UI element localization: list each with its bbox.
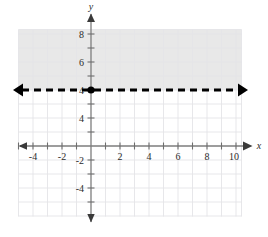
- y-axis-label: y: [88, 1, 94, 12]
- x-axis-arrow-right-icon: [243, 142, 253, 151]
- y-tick-label: 8: [79, 29, 84, 40]
- x-axis-arrow-left-icon: [19, 142, 28, 150]
- y-tick-label: -2: [76, 155, 84, 166]
- y-axis-arrow-up-icon: [87, 14, 95, 23]
- x-tick-label: -4: [29, 151, 37, 162]
- y-intercept-dot: [87, 86, 94, 93]
- x-tick-label: 2: [118, 151, 123, 162]
- shaded-region-group: [19, 30, 242, 91]
- x-tick-label: 10: [229, 151, 239, 162]
- graph-figure: -4 -2 2 4 6 8 10 8 6 4 4 -2 -4 y x: [0, 0, 268, 237]
- boundary-arrow-left-icon: [13, 84, 23, 97]
- coordinate-plane-svg: -4 -2 2 4 6 8 10 8 6 4 4 -2 -4 y x: [0, 0, 268, 237]
- x-tick-label: -2: [58, 151, 66, 162]
- y-tick-label: -4: [76, 183, 84, 194]
- y-tick-label: 4: [79, 113, 84, 124]
- y-tick-label: 6: [79, 57, 84, 68]
- solution-region-above: [19, 30, 242, 91]
- y-axis-arrow-down-icon: [87, 214, 94, 223]
- x-tick-label: 6: [176, 151, 181, 162]
- x-tick-label: 8: [205, 151, 210, 162]
- x-axis-label: x: [256, 140, 262, 151]
- x-tick-label: 4: [147, 151, 152, 162]
- boundary-arrow-right-icon: [238, 84, 248, 97]
